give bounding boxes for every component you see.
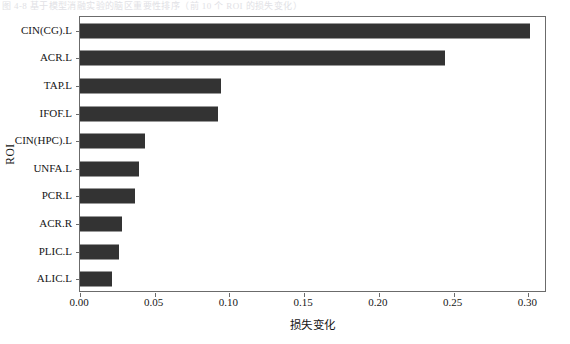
- y-tick-label: CIN(CG).L: [21, 24, 72, 35]
- y-tick: [76, 114, 80, 115]
- bar-row: [80, 238, 545, 266]
- bar-row: [80, 183, 545, 211]
- bar: [80, 272, 112, 287]
- x-tick-label: 0.20: [368, 296, 387, 308]
- bar: [80, 216, 122, 231]
- bar-row: [80, 265, 545, 293]
- bar-row: [80, 17, 545, 45]
- y-tick: [76, 86, 80, 87]
- y-tick-label: PLIC.L: [39, 245, 72, 256]
- y-tick: [76, 31, 80, 32]
- y-tick: [76, 58, 80, 59]
- y-tick-label: TAP.L: [44, 80, 72, 91]
- y-tick-label: ACR.R: [39, 218, 72, 229]
- bar-row: [80, 155, 545, 183]
- x-tick-label: 0.15: [294, 296, 313, 308]
- y-tick: [76, 141, 80, 142]
- y-tick-label: CIN(HPC).L: [15, 135, 72, 146]
- bar-row: [80, 72, 545, 100]
- bar-row: [80, 127, 545, 155]
- y-tick: [76, 252, 80, 253]
- bar-row: [80, 210, 545, 238]
- y-tick: [76, 169, 80, 170]
- x-tick-label: 0.05: [144, 296, 163, 308]
- bar-chart-figure: ROI CIN(CG).LACR.LTAP.LIFOF.LCIN(HPC).LU…: [0, 0, 570, 344]
- bar: [80, 189, 135, 204]
- bar: [80, 51, 445, 66]
- y-tick-label: PCR.L: [42, 190, 72, 201]
- y-axis-tick-labels: CIN(CG).LACR.LTAP.LIFOF.LCIN(HPC).LUNFA.…: [0, 16, 75, 292]
- bar: [80, 161, 139, 176]
- bar: [80, 244, 119, 259]
- y-tick-label: IFOF.L: [40, 107, 72, 118]
- y-tick: [76, 196, 80, 197]
- x-tick-label: 0.30: [518, 296, 537, 308]
- x-tick-label: 0.25: [443, 296, 462, 308]
- bar-row: [80, 45, 545, 73]
- y-tick: [76, 224, 80, 225]
- bar: [80, 134, 145, 149]
- bar: [80, 106, 218, 121]
- plot-area: [79, 16, 546, 292]
- y-tick-label: ACR.L: [40, 52, 72, 63]
- bar: [80, 23, 530, 38]
- x-tick-label: 0.00: [69, 296, 88, 308]
- x-tick-label: 0.10: [219, 296, 238, 308]
- bar-row: [80, 100, 545, 128]
- y-tick: [76, 279, 80, 280]
- y-tick-label: ALIC.L: [37, 273, 72, 284]
- x-axis-title: 损失变化: [79, 316, 546, 332]
- x-axis-tick-labels: 0.000.050.100.150.200.250.30: [79, 296, 546, 312]
- y-tick-label: UNFA.L: [33, 162, 72, 173]
- bar: [80, 78, 221, 93]
